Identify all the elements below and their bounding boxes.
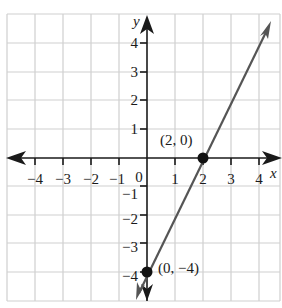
y-tick-label: 1 [131,121,139,137]
x-tick-labels: −4 −3 −2 −1 1 2 3 4 [27,171,263,187]
origin-label: 0 [135,169,143,185]
x-tick-label: 4 [255,171,263,187]
point-label-y-intercept: (0, −4) [158,260,199,277]
y-tick-label: 4 [131,35,139,51]
y-tick-label: −2 [122,211,138,227]
y-tick-label: 2 [131,92,139,108]
x-tick-label: 1 [171,171,179,187]
x-tick-label: −2 [83,171,99,187]
x-axis [12,158,272,165]
x-tick-label: −3 [55,171,71,187]
point-y-intercept [142,267,153,278]
graph: y x −4 −3 −2 −1 1 2 3 4 0 −4 −3 −2 −1 1 … [0,0,282,308]
x-tick-label: 3 [227,171,235,187]
y-axis [140,22,147,301]
y-axis-label: y [131,13,140,29]
x-tick-label: −1 [109,171,125,187]
point-label-x-intercept: (2, 0) [160,132,193,149]
y-tick-label: −3 [122,239,138,255]
x-axis-label: x [269,165,277,181]
line-top-arrow-icon [260,21,271,39]
y-tick-label: −1 [122,186,138,202]
x-tick-label: 2 [199,171,207,187]
y-tick-label: 3 [131,64,139,80]
x-tick-label: −4 [27,171,43,187]
y-tick-label: −4 [122,268,138,284]
point-x-intercept [198,153,209,164]
